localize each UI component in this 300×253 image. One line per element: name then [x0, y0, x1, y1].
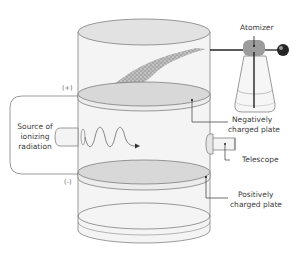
minus-sign-label: (-) — [64, 178, 71, 186]
positive-plate-label-line2: charged plate — [230, 200, 282, 210]
radiation-source-label-line1: Source of — [16, 122, 54, 132]
negative-plate-label-line2: charged plate — [228, 125, 280, 135]
radiation-source-label-line3: radiation — [16, 142, 54, 152]
telescope — [206, 134, 235, 154]
atomizer-flask — [210, 36, 289, 112]
radiation-source-label: Source of ionizing radiation — [16, 122, 54, 152]
telescope-label: Telescope — [242, 155, 279, 165]
negative-plate-label-line1: Negatively — [232, 115, 272, 125]
atomizer-label: Atomizer — [240, 23, 274, 33]
positive-plate-label-line1: Positively — [238, 190, 273, 200]
positively-charged-plate — [78, 160, 210, 190]
negatively-charged-plate — [78, 82, 210, 111]
plus-sign-label: (+) — [62, 84, 73, 92]
oil-drop-apparatus-diagram: Atomizer Negatively charged plate Telesc… — [0, 0, 300, 253]
radiation-source-label-line2: ionizing — [16, 132, 54, 142]
